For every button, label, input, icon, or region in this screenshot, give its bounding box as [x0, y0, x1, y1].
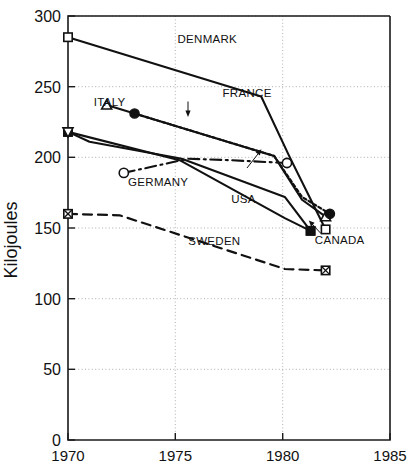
xtick-label: 1975 [159, 447, 192, 464]
ytick-label: 150 [34, 220, 61, 237]
marker-denmark [64, 33, 72, 41]
x-axis-tick-labels: 1970 1975 1980 1985 [51, 447, 406, 464]
series-label-france: FRANCE [223, 87, 272, 99]
xtick-label: 1985 [373, 447, 406, 464]
series-label-usa: USA [231, 193, 256, 205]
ytick-label: 250 [34, 79, 61, 96]
series-line [68, 132, 311, 231]
marker-denmark [321, 225, 329, 233]
marker-sweden [321, 266, 329, 274]
line-chart-svg: 0 50 100 150 200 250 300 1970 1975 1980 … [0, 0, 410, 474]
france-arrowhead [185, 111, 190, 118]
y-axis-ticks [68, 16, 75, 440]
ytick-label: 100 [34, 291, 61, 308]
y-axis-title: Kilojoules [1, 201, 21, 278]
marker-sweden [64, 210, 72, 218]
marker-germany [119, 168, 128, 177]
marker-germany [282, 158, 291, 167]
series-usa [64, 128, 315, 235]
series-label-canada: CANADA [315, 234, 365, 246]
ytick-label: 300 [34, 8, 61, 25]
marker-france [325, 209, 334, 218]
xtick-label: 1970 [51, 447, 84, 464]
xtick-label: 1980 [266, 447, 299, 464]
marker-france [130, 109, 139, 118]
ytick-label: 50 [43, 361, 61, 378]
y-axis-tick-labels: 0 50 100 150 200 250 300 [34, 8, 61, 449]
series-line [107, 105, 326, 217]
usa-leader [247, 152, 260, 168]
series-label-italy: ITALY [94, 96, 126, 108]
series-label-germany: GERMANY [128, 176, 188, 188]
series-line [124, 159, 287, 173]
ytick-label: 200 [34, 149, 61, 166]
marker-canada [306, 227, 314, 235]
series-label-denmark: DENMARK [177, 33, 237, 45]
series-line [68, 132, 311, 231]
chart-container: 0 50 100 150 200 250 300 1970 1975 1980 … [0, 0, 410, 474]
x-axis-ticks [68, 433, 390, 440]
grid-lines [68, 16, 390, 440]
series-label-sweden: SWEDEN [188, 235, 240, 247]
